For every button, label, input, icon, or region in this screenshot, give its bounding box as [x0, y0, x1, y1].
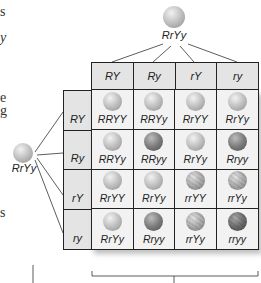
punnett-cell: Rryy — [217, 130, 259, 170]
pea-icon — [186, 132, 205, 151]
column-gamete: rY — [176, 63, 218, 89]
pea-icon — [186, 212, 205, 231]
row-gamete: ry — [64, 210, 91, 250]
pea-icon — [103, 132, 122, 151]
pea-icon — [228, 171, 247, 190]
pea-icon — [228, 212, 247, 231]
offspring-genotype: RrYY — [100, 192, 125, 204]
offspring-genotype: rrYy — [186, 233, 205, 245]
punnett-cell: RrYy — [217, 90, 259, 130]
offspring-genotype: rrYy — [228, 192, 247, 204]
row-gamete: Ry — [64, 131, 91, 171]
punnett-cell: RRyy — [134, 130, 176, 170]
column-gamete-header: RY Ry rY ry — [91, 62, 259, 90]
punnett-square-grid: RRYY RRYy RrYY RrYy RRYy RRyy RrYy Rryy … — [91, 90, 259, 250]
punnett-cell: RrYy — [134, 170, 176, 210]
punnett-cell: rrYy — [217, 170, 259, 210]
column-gamete: ry — [217, 63, 258, 89]
punnett-cell: rryy — [217, 209, 259, 249]
offspring-genotype: RrYY — [183, 113, 208, 125]
offspring-genotype: RRYY — [98, 113, 127, 125]
offspring-genotype: Rryy — [143, 233, 165, 245]
offspring-genotype: RRYy — [99, 153, 126, 165]
pea-icon — [144, 132, 163, 151]
pea-icon — [103, 92, 122, 111]
column-gamete: RY — [92, 63, 134, 89]
pea-icon — [228, 132, 247, 151]
punnett-cell: RRYy — [134, 90, 176, 130]
left-parent-genotype: RrYy — [4, 162, 44, 174]
punnett-cell: RRYY — [92, 90, 134, 130]
pea-icon — [103, 212, 122, 231]
punnett-cell: RrYY — [175, 90, 217, 130]
column-gamete: Ry — [134, 63, 176, 89]
offspring-genotype: RrYy — [101, 233, 124, 245]
punnett-cell: RrYy — [92, 209, 134, 249]
punnett-cell: RRYy — [92, 130, 134, 170]
pea-icon — [144, 212, 163, 231]
pea-icon — [144, 171, 163, 190]
pea-icon — [144, 92, 163, 111]
top-parent-genotype: RrYy — [150, 29, 198, 41]
pea-icon — [186, 171, 205, 190]
offspring-genotype: RrYy — [184, 153, 207, 165]
top-parent-pea-icon — [163, 6, 185, 28]
punnett-cell: Rryy — [134, 209, 176, 249]
punnett-cell: RrYY — [92, 170, 134, 210]
row-gamete-header: RY Ry rY ry — [63, 90, 91, 250]
pea-icon — [186, 92, 205, 111]
punnett-cell: rrYY — [175, 170, 217, 210]
offspring-genotype: rryy — [229, 233, 247, 245]
row-gamete: rY — [64, 170, 91, 210]
offspring-genotype: RrYy — [142, 192, 165, 204]
pea-icon — [103, 171, 122, 190]
offspring-genotype: RrYy — [226, 113, 249, 125]
offspring-genotype: Rryy — [226, 153, 248, 165]
offspring-genotype: RRYy — [140, 113, 167, 125]
left-parent-pea-icon — [13, 143, 33, 163]
punnett-cell: rrYy — [175, 209, 217, 249]
offspring-genotype: RRyy — [141, 153, 167, 165]
pea-icon — [228, 92, 247, 111]
offspring-genotype: rrYY — [185, 192, 206, 204]
row-gamete: RY — [64, 91, 91, 131]
punnett-cell: RrYy — [175, 130, 217, 170]
